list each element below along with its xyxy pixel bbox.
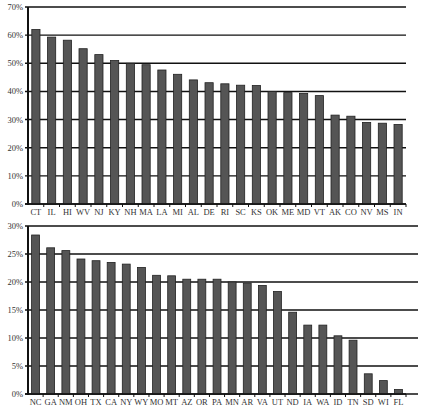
bar-wi bbox=[379, 381, 387, 394]
bar-mi bbox=[174, 74, 182, 204]
bar-mn bbox=[228, 282, 236, 394]
x-category-label: VA bbox=[257, 397, 269, 407]
bar-nc bbox=[32, 235, 40, 394]
bar-ny bbox=[122, 264, 130, 394]
bar-wa bbox=[319, 325, 327, 394]
bar-ms bbox=[378, 123, 386, 204]
x-category-label: ID bbox=[334, 397, 343, 407]
y-tick-label: 10% bbox=[7, 333, 23, 343]
x-category-label: AK bbox=[329, 207, 342, 217]
bar-il bbox=[48, 37, 56, 204]
x-category-label: MI bbox=[172, 207, 183, 217]
bar-va bbox=[258, 285, 266, 394]
bar-ia bbox=[304, 325, 312, 394]
y-tick-label: 20% bbox=[7, 143, 23, 153]
x-category-label: CT bbox=[30, 207, 42, 217]
x-category-label: OR bbox=[196, 397, 208, 407]
bottom-bar-chart: 0%5%10%15%20%25%30%NCGANMOHTXCANYWYMOMTA… bbox=[7, 221, 418, 407]
bar-sd bbox=[364, 374, 372, 394]
bar-vt bbox=[315, 96, 323, 204]
x-category-label: GA bbox=[45, 397, 58, 407]
y-tick-label: 10% bbox=[7, 171, 23, 181]
x-category-label: SD bbox=[363, 397, 374, 407]
bar-ar bbox=[243, 283, 251, 394]
x-category-label: CA bbox=[105, 397, 118, 407]
x-category-label: OH bbox=[75, 397, 87, 407]
x-category-label: KS bbox=[251, 207, 262, 217]
bar-mt bbox=[168, 276, 176, 394]
bar-nd bbox=[289, 312, 297, 394]
bar-al bbox=[189, 80, 197, 204]
x-category-label: MD bbox=[297, 207, 311, 217]
x-category-label: WV bbox=[76, 207, 91, 217]
x-category-label: MN bbox=[225, 397, 239, 407]
x-category-label: OK bbox=[266, 207, 279, 217]
bar-ca bbox=[107, 262, 115, 394]
y-tick-label: 60% bbox=[7, 30, 23, 40]
x-category-label: SC bbox=[235, 207, 246, 217]
bar-nj bbox=[95, 55, 103, 204]
x-category-label: MS bbox=[376, 207, 389, 217]
bar-la bbox=[158, 70, 166, 204]
bar-md bbox=[300, 93, 308, 204]
x-category-label: DE bbox=[203, 207, 214, 217]
bar-ct bbox=[32, 30, 40, 205]
bar-charts-svg: 0%10%20%30%40%50%60%70%CTILHIWVNJKYNHMAL… bbox=[0, 0, 422, 408]
bar-az bbox=[183, 279, 191, 394]
y-tick-label: 70% bbox=[7, 2, 23, 12]
bar-nm bbox=[62, 251, 70, 394]
x-category-label: WY bbox=[134, 397, 148, 407]
x-category-label: PA bbox=[212, 397, 223, 407]
chart-figure: 0%10%20%30%40%50%60%70%CTILHIWVNJKYNHMAL… bbox=[0, 0, 422, 408]
x-category-label: AL bbox=[188, 207, 199, 217]
x-category-label: NC bbox=[30, 397, 42, 407]
x-category-label: AZ bbox=[181, 397, 192, 407]
x-category-label: MT bbox=[165, 397, 179, 407]
bar-ky bbox=[111, 61, 119, 205]
top-bar-chart: 0%10%20%30%40%50%60%70%CTILHIWVNJKYNHMAL… bbox=[7, 2, 406, 217]
x-category-label: NV bbox=[360, 207, 373, 217]
x-category-label: UT bbox=[272, 397, 284, 407]
x-category-label: LA bbox=[156, 207, 168, 217]
x-category-label: IN bbox=[394, 207, 403, 217]
x-category-label: NM bbox=[59, 397, 73, 407]
bar-co bbox=[347, 116, 355, 204]
bar-oh bbox=[77, 259, 85, 394]
x-category-label: FL bbox=[393, 397, 403, 407]
x-category-label: ND bbox=[286, 397, 298, 407]
bar-wv bbox=[79, 49, 87, 204]
x-category-label: MO bbox=[150, 397, 164, 407]
y-tick-label: 0% bbox=[12, 389, 23, 399]
x-category-label: RI bbox=[221, 207, 230, 217]
y-tick-label: 30% bbox=[7, 115, 23, 125]
x-category-label: CO bbox=[345, 207, 357, 217]
bar-sc bbox=[237, 85, 245, 204]
bar-mo bbox=[153, 275, 161, 394]
x-category-label: VT bbox=[314, 207, 326, 217]
bar-tn bbox=[349, 340, 357, 394]
x-category-label: MA bbox=[139, 207, 154, 217]
bar-tx bbox=[92, 261, 100, 394]
x-category-label: NY bbox=[120, 397, 132, 407]
y-tick-label: 0% bbox=[12, 199, 23, 209]
x-category-label: TN bbox=[347, 397, 358, 407]
bar-wy bbox=[138, 267, 146, 394]
y-tick-label: 25% bbox=[7, 249, 23, 259]
bar-ut bbox=[274, 292, 282, 395]
bar-ga bbox=[47, 248, 55, 394]
x-category-label: NJ bbox=[94, 207, 104, 217]
bar-in bbox=[394, 124, 402, 204]
x-category-label: HI bbox=[63, 207, 72, 217]
y-tick-label: 40% bbox=[7, 86, 23, 96]
bar-id bbox=[334, 336, 342, 394]
bar-ak bbox=[331, 115, 339, 204]
bar-or bbox=[198, 279, 206, 394]
y-tick-label: 30% bbox=[7, 221, 23, 231]
x-category-label: IA bbox=[303, 397, 313, 407]
y-tick-label: 50% bbox=[7, 58, 23, 68]
y-tick-label: 20% bbox=[7, 277, 23, 287]
x-category-label: IL bbox=[48, 207, 56, 217]
bar-ks bbox=[252, 86, 260, 205]
x-category-label: ME bbox=[282, 207, 295, 217]
x-category-label: KY bbox=[108, 207, 120, 217]
